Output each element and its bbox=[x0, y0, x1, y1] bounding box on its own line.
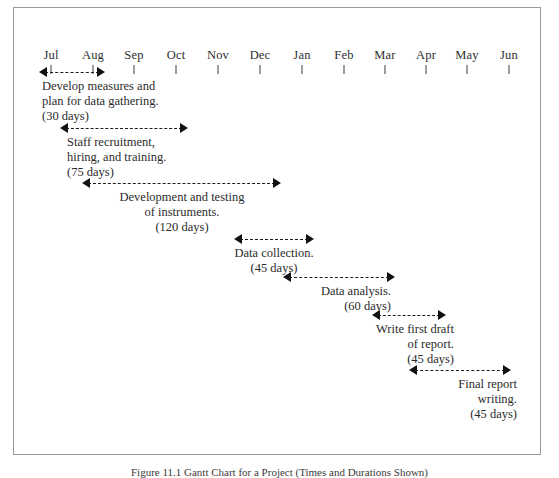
dashed-shaft bbox=[378, 315, 440, 316]
arrow-right-icon bbox=[387, 272, 395, 282]
month-tick-sep bbox=[134, 65, 135, 74]
task-duration: (120 days) bbox=[120, 220, 245, 235]
month-label-mar: Mar bbox=[374, 48, 395, 63]
task-label-line: Write first draft bbox=[376, 322, 454, 337]
dashed-shaft bbox=[240, 239, 308, 240]
month-label-jun: Jun bbox=[500, 48, 518, 63]
arrow-right-icon bbox=[438, 310, 446, 320]
task-duration: (45 days) bbox=[458, 407, 517, 422]
month-tick-feb bbox=[344, 65, 345, 74]
task-bar-6[interactable] bbox=[372, 310, 446, 321]
task-bar-2[interactable] bbox=[60, 123, 188, 134]
task-label-line: Development and testing bbox=[120, 190, 245, 205]
month-label-nov: Nov bbox=[207, 48, 229, 63]
dashed-shaft bbox=[415, 370, 505, 371]
month-tick-apr bbox=[426, 65, 427, 74]
figure-caption: Figure 11.1 Gantt Chart for a Project (T… bbox=[131, 466, 428, 478]
month-label-oct: Oct bbox=[167, 48, 186, 63]
task-bar-7[interactable] bbox=[409, 365, 511, 376]
task-label-line: plan for data gathering. bbox=[42, 94, 159, 109]
task-label-line: writing. bbox=[458, 392, 517, 407]
month-tick-mar bbox=[385, 65, 386, 74]
dashed-shaft bbox=[66, 128, 182, 129]
task-caption-7: Final reportwriting.(45 days) bbox=[458, 377, 517, 423]
month-tick-may bbox=[467, 65, 468, 74]
task-bar-5[interactable] bbox=[283, 272, 395, 283]
task-caption-3: Development and testingof instruments.(1… bbox=[120, 190, 245, 236]
dashed-shaft bbox=[45, 72, 99, 73]
task-label-line: Final report bbox=[458, 377, 517, 392]
task-bar-1[interactable] bbox=[39, 67, 105, 78]
dashed-shaft bbox=[88, 183, 275, 184]
month-tick-jun bbox=[509, 65, 510, 74]
task-label-line: Data collection. bbox=[234, 246, 313, 261]
month-tick-dec bbox=[260, 65, 261, 74]
month-label-jul: Jul bbox=[43, 48, 58, 63]
task-label-line: of report. bbox=[376, 337, 454, 352]
arrow-right-icon bbox=[273, 178, 281, 188]
task-label-line: Data analysis. bbox=[321, 284, 391, 299]
month-label-apr: Apr bbox=[416, 48, 436, 63]
month-tick-nov bbox=[218, 65, 219, 74]
task-label-line: hiring, and training. bbox=[67, 150, 166, 165]
arrow-right-icon bbox=[503, 365, 511, 375]
task-caption-2: Staff recruitment,hiring, and training.(… bbox=[67, 135, 166, 181]
task-label-line: of instruments. bbox=[120, 205, 245, 220]
task-bar-3[interactable] bbox=[82, 178, 281, 189]
dashed-shaft bbox=[289, 277, 389, 278]
arrow-right-icon bbox=[97, 67, 105, 77]
task-caption-1: Develop measures andplan for data gather… bbox=[42, 79, 159, 125]
month-label-jan: Jan bbox=[293, 48, 310, 63]
month-label-aug: Aug bbox=[82, 48, 104, 63]
task-bar-4[interactable] bbox=[234, 234, 314, 245]
month-label-dec: Dec bbox=[250, 48, 271, 63]
figure-frame: JulAugSepOctNovDecJanFebMarAprMayJun Dev… bbox=[13, 7, 541, 455]
month-label-feb: Feb bbox=[334, 48, 353, 63]
month-tick-oct bbox=[176, 65, 177, 74]
task-caption-6: Write first draftof report.(45 days) bbox=[376, 322, 454, 368]
month-label-sep: Sep bbox=[124, 48, 143, 63]
arrow-right-icon bbox=[180, 123, 188, 133]
month-tick-jan bbox=[302, 65, 303, 74]
task-label-line: Staff recruitment, bbox=[67, 135, 166, 150]
task-label-line: Develop measures and bbox=[42, 79, 159, 94]
arrow-right-icon bbox=[306, 234, 314, 244]
month-label-may: May bbox=[455, 48, 479, 63]
